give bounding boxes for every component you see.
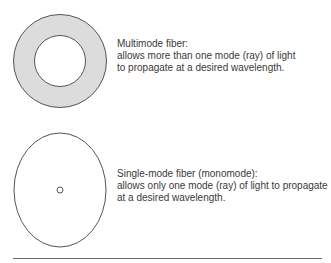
bottom-divider	[13, 258, 322, 259]
singlemode-description-line1: allows only one mode (ray) of light to p…	[117, 180, 328, 192]
singlemode-title: Single-mode fiber (monomode):	[117, 168, 328, 180]
singlemode-caption: Single-mode fiber (monomode): allows onl…	[117, 168, 328, 204]
multimode-caption: Multimode fiber: allows more than one mo…	[117, 38, 295, 74]
multimode-fiber-cross-section	[14, 15, 107, 108]
singlemode-description-line2: at a desired wavelength.	[117, 192, 328, 204]
multimode-description-line1: allows more than one mode (ray) of light	[117, 50, 295, 62]
multimode-core	[35, 36, 86, 87]
multimode-title: Multimode fiber:	[117, 38, 295, 50]
multimode-description-line2: to propagate at a desired wavelength.	[117, 62, 295, 74]
singlemode-fiber-cross-section	[14, 133, 106, 247]
singlemode-core	[57, 187, 63, 193]
